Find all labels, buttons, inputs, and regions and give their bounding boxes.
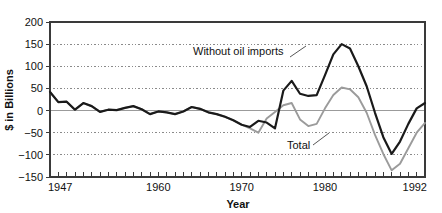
chart-container: 200150100500−50−100−150 1947196019701980… [0, 0, 442, 213]
x-tick-label-1947: 1947 [48, 181, 72, 193]
y-tick-label--50: −50 [24, 127, 43, 139]
x-tick-label-1980: 1980 [313, 181, 337, 193]
x-tick-label-1992: 1992 [403, 181, 427, 193]
annotation-label-without-oil-imports: Without oil imports [193, 45, 284, 57]
y-tick-label-0: 0 [37, 105, 43, 117]
annotation-label-total: Total [287, 139, 310, 151]
x-tick-label-1960: 1960 [146, 181, 170, 193]
y-tick-label--100: −100 [18, 149, 43, 161]
y-tick-label-150: 150 [25, 38, 43, 50]
trade-balance-line-chart: 200150100500−50−100−150 1947196019701980… [0, 0, 442, 213]
y-tick-label--150: −150 [18, 171, 43, 183]
x-axis-title: Year [226, 198, 250, 210]
y-axis-title: $ in Billions [3, 69, 15, 131]
y-tick-label-50: 50 [31, 82, 43, 94]
y-tick-label-100: 100 [25, 60, 43, 72]
y-tick-label-200: 200 [25, 16, 43, 28]
x-tick-label-1970: 1970 [229, 181, 253, 193]
